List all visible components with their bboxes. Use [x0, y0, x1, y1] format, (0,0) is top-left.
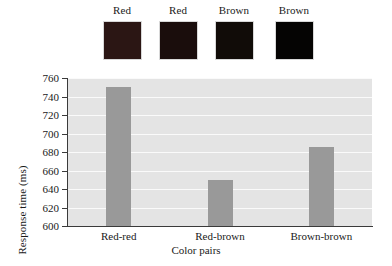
- y-tick: [62, 171, 68, 172]
- y-tick-label: 740: [26, 92, 59, 103]
- swatch-red-2: [159, 21, 198, 60]
- swatch-item-2: Red: [150, 4, 206, 60]
- x-tick-label: Red-red: [64, 230, 174, 243]
- y-tick-label: 700: [26, 129, 59, 140]
- y-tick: [62, 78, 68, 79]
- chart-area: Response time (ms) 600620640660680700720…: [0, 70, 392, 266]
- x-axis-title: Color pairs: [0, 244, 392, 257]
- swatch-item-4: Brown: [266, 4, 322, 60]
- bar-red-brown: [208, 180, 233, 226]
- y-tick: [62, 189, 68, 190]
- color-swatch-strip: Red Red Brown Brown: [0, 0, 392, 70]
- swatch-item-1: Red: [94, 4, 150, 60]
- swatch-label-3: Brown: [206, 4, 262, 17]
- x-axis-line: [67, 226, 373, 227]
- y-tick: [62, 97, 68, 98]
- y-tick: [62, 134, 68, 135]
- swatch-brown-2: [275, 21, 314, 60]
- y-tick: [62, 226, 68, 227]
- swatch-item-3: Brown: [206, 4, 262, 60]
- swatch-label-1: Red: [94, 4, 150, 17]
- swatch-brown-1: [215, 21, 254, 60]
- swatch-label-4: Brown: [266, 4, 322, 17]
- bar-chart-figure: Red Red Brown Brown Response time (ms) 6…: [0, 0, 392, 266]
- y-tick-label: 680: [26, 147, 59, 158]
- y-tick-label: 620: [26, 203, 59, 214]
- swatch-red-1: [103, 21, 142, 60]
- y-tick: [62, 152, 68, 153]
- y-tick: [62, 208, 68, 209]
- y-tick-label: 600: [26, 221, 59, 232]
- plot-area: [68, 78, 372, 226]
- y-tick-label: 720: [26, 110, 59, 121]
- y-tick: [62, 115, 68, 116]
- x-tick-label: Brown-brown: [266, 230, 376, 243]
- x-tick-label: Red-brown: [165, 230, 275, 243]
- y-tick-label: 660: [26, 166, 59, 177]
- bar-red-red: [106, 87, 131, 226]
- y-tick-label: 640: [26, 184, 59, 195]
- y-tick-label: 760: [26, 73, 59, 84]
- swatch-label-2: Red: [150, 4, 206, 17]
- bar-brown-brown: [309, 147, 334, 227]
- gridline: [68, 78, 372, 79]
